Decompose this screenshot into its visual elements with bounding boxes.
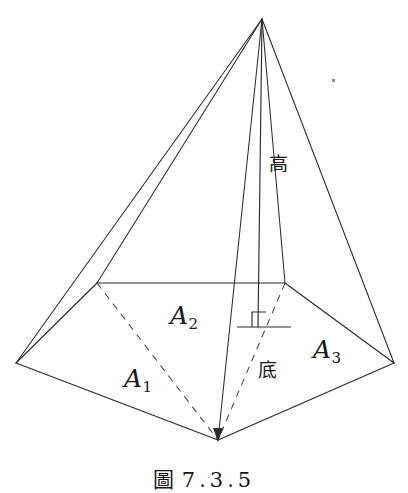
label-a3-letter: A [313, 335, 331, 364]
label-height: 高 [269, 155, 289, 174]
base-edge-left-back [16, 283, 97, 363]
label-base: 底 [258, 361, 278, 380]
altitude-line-group [258, 19, 262, 327]
front-vertex-arrowhead [213, 428, 223, 442]
arrowhead-glyph [213, 428, 223, 442]
lateral-edges [16, 19, 394, 440]
label-face-area-a2: A2 [170, 303, 198, 332]
print-speck-artifact [332, 79, 335, 82]
base-edge-right-front [218, 363, 394, 440]
label-a2-letter: A [170, 301, 188, 330]
right-angle-marker [252, 312, 266, 327]
caption-number: 7.3.5 [182, 468, 255, 492]
label-face-area-a3: A3 [313, 337, 341, 366]
right-angle-square-glyph [252, 312, 266, 327]
edge-apex-to-back-left-vertex [97, 19, 262, 283]
caption-prefix: 圖 [153, 468, 176, 492]
edge-apex-to-front-vertex [218, 19, 262, 440]
edge-apex-to-left-vertex [16, 19, 262, 363]
edge-apex-to-back-right-vertex [262, 19, 285, 283]
label-face-area-a1: A1 [124, 366, 152, 395]
edge-apex-to-right-vertex [262, 19, 394, 363]
label-a1-letter: A [124, 364, 142, 393]
figure-caption: 圖7.3.5 [0, 463, 408, 493]
height-line [258, 19, 262, 327]
label-a1-subscript: 1 [143, 378, 153, 396]
label-a3-subscript: 3 [332, 349, 342, 367]
label-a2-subscript: 2 [189, 315, 199, 333]
